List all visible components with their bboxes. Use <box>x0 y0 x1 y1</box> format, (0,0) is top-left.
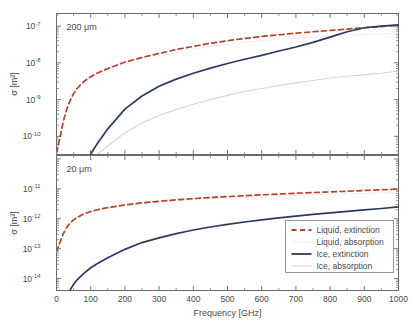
x-tick-label: 0 <box>54 294 59 304</box>
x-tick-label: 200 <box>118 294 132 304</box>
x-tick-label: 100 <box>84 294 98 304</box>
x-tick-label: 300 <box>152 294 166 304</box>
x-tick-label: 500 <box>220 294 234 304</box>
chart-legend[interactable]: Liquid, extinctionLiquid, absorptionIce,… <box>286 221 394 273</box>
legend-label-ice-extinction[interactable]: Ice, extinction <box>317 249 369 259</box>
x-tick-label: 700 <box>289 294 303 304</box>
figure-background <box>0 0 420 330</box>
y-tick-exponent: -14 <box>32 273 41 279</box>
y-tick-exponent: -9 <box>35 94 40 100</box>
y-tick-exponent: -13 <box>32 243 40 249</box>
y-tick-exponent: -12 <box>32 213 40 219</box>
x-tick-label: 900 <box>357 294 371 304</box>
y-tick-exponent: -11 <box>33 183 41 189</box>
chart-figure: 10-710-810-910-10200 μmσ [m²] 10-1110-12… <box>0 0 420 330</box>
x-tick-label: 1000 <box>389 294 408 304</box>
x-axis-title: Frequency [GHz] <box>193 308 261 318</box>
panel-annotation: 200 μm <box>67 22 97 32</box>
panel-annotation: 20 μm <box>67 164 92 174</box>
x-tick-label: 800 <box>323 294 337 304</box>
legend-label-ice-absorption[interactable]: Ice, absorption <box>317 261 373 271</box>
legend-label-liquid-absorption[interactable]: Liquid, absorption <box>317 237 384 247</box>
y-axis-title: σ [m²] <box>9 72 19 96</box>
y-tick-exponent: -7 <box>35 21 40 27</box>
y-tick-exponent: -8 <box>35 57 40 63</box>
x-tick-label: 400 <box>186 294 200 304</box>
x-tick-label: 600 <box>255 294 269 304</box>
legend-label-liquid-extinction[interactable]: Liquid, extinction <box>317 225 381 235</box>
chart-canvas: 10-710-810-910-10200 μmσ [m²] 10-1110-12… <box>0 0 420 330</box>
y-axis-title: σ [m²] <box>9 211 19 235</box>
y-tick-exponent: -10 <box>32 131 40 137</box>
